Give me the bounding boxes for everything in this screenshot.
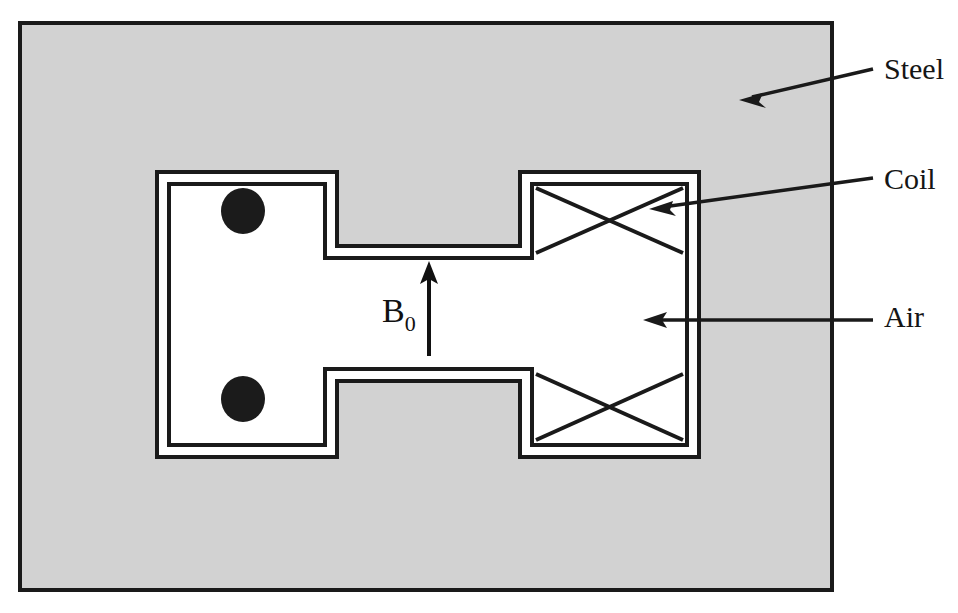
- callout-label-air: Air: [884, 300, 924, 333]
- callout-label-coil: Coil: [884, 162, 936, 195]
- figure-root: B0 Steel Coil Air: [0, 0, 958, 613]
- field-label-base: B: [382, 292, 405, 329]
- current-out-of-page-dot-icon: [221, 188, 265, 234]
- magnetic-circuit-diagram: B0 Steel Coil Air: [0, 0, 958, 613]
- callout-label-steel: Steel: [884, 52, 944, 85]
- magnet-top-left: [221, 188, 265, 234]
- current-out-of-page-dot-icon: [221, 376, 265, 422]
- magnet-bottom-left: [221, 376, 265, 422]
- field-label-subscript: 0: [405, 311, 416, 336]
